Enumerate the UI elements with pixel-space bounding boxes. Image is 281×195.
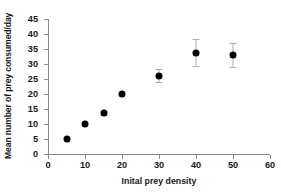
x-tick-label: 30 xyxy=(154,160,164,170)
data-point xyxy=(156,72,163,79)
error-bar-cap-upper xyxy=(156,69,163,70)
error-bar-cap-lower xyxy=(230,67,237,68)
y-tick xyxy=(44,139,48,140)
x-tick xyxy=(159,155,160,159)
y-tick xyxy=(44,94,48,95)
x-tick-label: 0 xyxy=(45,160,50,170)
y-tick-label-host: 5 xyxy=(43,139,44,140)
y-tick-label: 15 xyxy=(28,104,38,114)
error-bar-cap-lower xyxy=(193,66,200,67)
x-tick-label: 40 xyxy=(191,160,201,170)
x-tick-label: 10 xyxy=(80,160,90,170)
y-tick-label-host: 20 xyxy=(43,94,44,95)
x-tick xyxy=(270,155,271,159)
y-tick xyxy=(44,34,48,35)
y-tick-label-host: 0 xyxy=(43,154,44,155)
data-point xyxy=(119,91,126,98)
y-tick-label-host: 45 xyxy=(43,19,44,20)
data-point xyxy=(230,52,237,59)
y-tick xyxy=(44,124,48,125)
y-tick xyxy=(44,19,48,20)
x-axis-title: Inital prey density xyxy=(48,176,270,186)
y-tick-label: 20 xyxy=(28,89,38,99)
y-tick xyxy=(44,49,48,50)
error-bar-cap-upper xyxy=(230,43,237,44)
data-point xyxy=(82,121,89,128)
plot-area: 051015202530354045 0102030405060 xyxy=(48,19,270,155)
y-tick xyxy=(44,109,48,110)
x-tick xyxy=(122,155,123,159)
y-tick-label-host: 40 xyxy=(43,34,44,35)
y-tick xyxy=(44,64,48,65)
y-tick-label: 5 xyxy=(33,134,38,144)
y-tick-label: 40 xyxy=(28,29,38,39)
data-point xyxy=(193,49,200,56)
y-tick-label: 30 xyxy=(28,59,38,69)
y-tick-label: 25 xyxy=(28,74,38,84)
chart-figure: Mean number of prey consumed/day 0510152… xyxy=(0,0,281,195)
y-axis-title-wrapper: Mean number of prey consumed/day xyxy=(0,14,16,159)
x-tick-label: 50 xyxy=(228,160,238,170)
y-tick-label-host: 25 xyxy=(43,79,44,80)
x-tick xyxy=(48,155,49,159)
y-tick-label: 0 xyxy=(33,149,38,159)
x-tick-label: 60 xyxy=(265,160,275,170)
y-tick-label-host: 35 xyxy=(43,49,44,50)
data-point xyxy=(63,136,70,143)
x-tick xyxy=(233,155,234,159)
data-point xyxy=(100,109,107,116)
y-axis-title: Mean number of prey consumed/day xyxy=(1,13,15,159)
error-bar-cap-lower xyxy=(156,82,163,83)
y-tick-label: 10 xyxy=(28,119,38,129)
x-tick xyxy=(85,155,86,159)
error-bar-cap-upper xyxy=(193,39,200,40)
y-tick-label: 45 xyxy=(28,14,38,24)
y-tick-label-host: 15 xyxy=(43,109,44,110)
y-tick xyxy=(44,79,48,80)
y-tick-label: 35 xyxy=(28,44,38,54)
y-tick-label-host: 30 xyxy=(43,64,44,65)
x-tick xyxy=(196,155,197,159)
y-tick-label-host: 10 xyxy=(43,124,44,125)
x-tick-label: 20 xyxy=(117,160,127,170)
y-axis-line xyxy=(48,19,49,155)
